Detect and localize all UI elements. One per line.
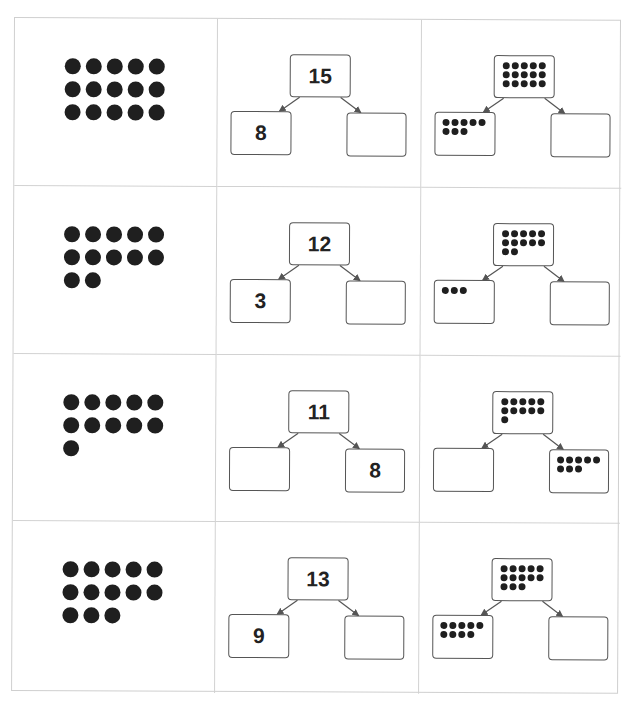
dot — [566, 465, 573, 472]
part-right-box[interactable] — [346, 280, 406, 324]
dot — [529, 230, 536, 237]
dot-array-cell — [14, 186, 218, 355]
number-bond-grid: 15 8 12 3 — [11, 17, 621, 694]
whole-dots-box — [494, 55, 555, 98]
dot — [557, 465, 564, 472]
dot — [512, 62, 519, 69]
mini-dot-array — [502, 230, 545, 255]
dot — [128, 81, 144, 97]
whole-box: 13 — [287, 557, 348, 600]
dot — [149, 105, 165, 121]
part-right-box[interactable] — [346, 112, 406, 156]
dot — [440, 631, 447, 638]
dot — [125, 584, 141, 600]
dot — [63, 417, 79, 433]
dot-bond-cell — [419, 523, 620, 695]
dot — [501, 416, 508, 423]
dot — [126, 394, 142, 410]
dot — [539, 71, 546, 78]
part-left-box[interactable] — [229, 447, 290, 491]
part-left-dots-box[interactable] — [434, 112, 495, 156]
dot — [566, 456, 573, 463]
dot — [449, 622, 456, 629]
dot — [148, 227, 164, 243]
dot — [503, 80, 510, 87]
dot — [512, 71, 519, 78]
dot — [503, 62, 510, 69]
dot — [519, 565, 526, 572]
part-right-dots-box[interactable] — [550, 281, 610, 325]
dot — [147, 562, 163, 578]
part-right-box[interactable] — [344, 615, 404, 659]
part-right-dots-box[interactable] — [550, 113, 610, 157]
dot — [519, 407, 526, 414]
mini-dot-array — [440, 622, 483, 638]
dot — [520, 239, 527, 246]
dot — [86, 104, 102, 120]
whole-dots-box — [491, 558, 552, 601]
dot — [147, 418, 163, 434]
dot — [476, 622, 483, 629]
number-bond: 13 9 — [215, 522, 419, 694]
numeric-bond-cell: 11 8 — [216, 355, 421, 523]
dot — [519, 583, 526, 590]
part-left-box[interactable]: 3 — [230, 279, 291, 323]
part-left-box[interactable]: 9 — [228, 614, 289, 658]
bond-arrows-icon — [420, 356, 621, 523]
part-left-dots-box[interactable] — [433, 448, 494, 492]
dot — [530, 80, 537, 87]
dot — [537, 398, 544, 405]
part-left-dots-box[interactable] — [432, 615, 493, 659]
dot — [126, 561, 142, 577]
numeric-bond-cell: 13 9 — [215, 522, 420, 694]
dot — [470, 119, 477, 126]
dot — [521, 62, 528, 69]
dot-number-bond — [421, 188, 622, 356]
dot — [107, 104, 123, 120]
whole-box: 11 — [288, 390, 349, 433]
dot — [458, 631, 465, 638]
part-right-dots-box[interactable] — [549, 449, 609, 493]
part-left-box[interactable]: 8 — [230, 111, 291, 155]
dot — [460, 128, 467, 135]
part-right-dots-box[interactable] — [548, 616, 608, 660]
dot — [467, 622, 474, 629]
dot — [84, 561, 100, 577]
dot — [83, 607, 99, 623]
dot — [501, 565, 508, 572]
mini-dot-array — [442, 119, 485, 135]
bond-arrows-icon — [419, 523, 620, 695]
dot — [510, 398, 517, 405]
dot — [126, 417, 142, 433]
dot — [65, 81, 81, 97]
dot — [519, 574, 526, 581]
whole-box: 15 — [290, 54, 351, 97]
dot — [104, 607, 120, 623]
dot — [440, 622, 447, 629]
dot — [537, 574, 544, 581]
whole-box: 12 — [289, 222, 350, 265]
dot — [479, 119, 486, 126]
dot — [452, 119, 459, 126]
dot — [530, 71, 537, 78]
dot — [537, 565, 544, 572]
mini-dot-array — [557, 456, 600, 472]
part-left-dots-box[interactable] — [434, 280, 495, 324]
number-bond: 12 3 — [217, 187, 421, 355]
dot — [83, 584, 99, 600]
dot — [467, 631, 474, 638]
dot — [107, 58, 123, 74]
dot — [511, 239, 518, 246]
dot — [502, 239, 509, 246]
bond-arrows-icon — [216, 355, 420, 522]
dot — [593, 457, 600, 464]
part-right-box[interactable]: 8 — [345, 448, 405, 492]
dot — [521, 80, 528, 87]
mini-dot-array — [501, 565, 544, 590]
dot — [460, 287, 467, 294]
dot — [511, 230, 518, 237]
dot — [511, 248, 518, 255]
dot-bond-cell — [421, 20, 622, 189]
dot-array-cell — [12, 521, 216, 693]
dot — [106, 249, 122, 265]
